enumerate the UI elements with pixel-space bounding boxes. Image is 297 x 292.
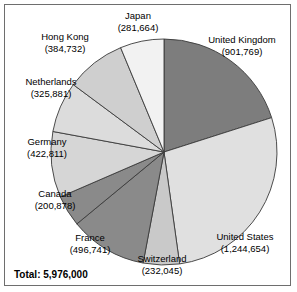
label-united-states-value: (1,244,654) (198, 243, 292, 255)
label-hong-kong-value: (384,732) (19, 43, 111, 55)
label-france-name: France (49, 232, 131, 244)
label-canada-value: (200,878) (14, 200, 96, 212)
label-japan-name: Japan (98, 10, 178, 22)
label-hong-kong-name: Hong Kong (19, 31, 111, 43)
label-united-states: United States (1,244,654) (198, 231, 292, 254)
label-netherlands-name: Netherlands (4, 76, 98, 88)
pie-chart-area: Japan (281,664) Hong Kong (384,732) Neth… (5, 5, 292, 287)
label-germany: Germany (422,811) (3, 136, 91, 159)
label-hong-kong: Hong Kong (384,732) (19, 31, 111, 54)
label-united-states-name: United States (198, 231, 292, 243)
label-canada-name: Canada (14, 188, 96, 200)
label-switzerland: Switzerland (232,045) (119, 253, 205, 276)
label-netherlands: Netherlands (325,881) (4, 76, 98, 99)
label-canada: Canada (200,878) (14, 188, 96, 211)
chart-frame: Japan (281,664) Hong Kong (384,732) Neth… (4, 4, 291, 286)
label-switzerland-name: Switzerland (119, 253, 205, 265)
label-united-kingdom: United Kingdom (901,769) (193, 34, 291, 57)
label-netherlands-value: (325,881) (4, 88, 98, 100)
label-united-kingdom-value: (901,769) (193, 46, 291, 58)
label-switzerland-value: (232,045) (119, 265, 205, 277)
label-germany-value: (422,811) (3, 148, 91, 160)
label-united-kingdom-name: United Kingdom (193, 34, 291, 46)
label-japan: Japan (281,664) (98, 10, 178, 33)
label-france: France (496,741) (49, 232, 131, 255)
label-germany-name: Germany (3, 136, 91, 148)
total-label: Total: 5,976,000 (14, 269, 88, 280)
